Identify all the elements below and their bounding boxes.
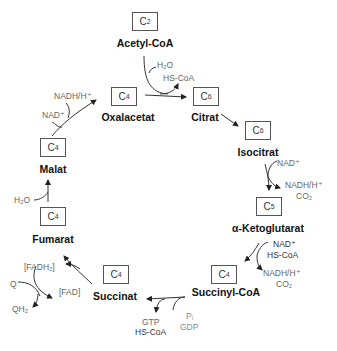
cofactor-co2-isocitrate: CO₂	[296, 191, 312, 201]
metabolite-alpha-ketoglutarat: α-Ketoglutarat	[232, 222, 304, 234]
carbon-count-box-succinat: C4	[103, 265, 129, 284]
carbon-label: C	[139, 16, 146, 27]
cofactor-fadh2: [FADH₂]	[24, 262, 55, 272]
cofactor-gtp: GTP	[142, 317, 159, 327]
cofactor-nadh-malate: NADH/H⁺	[54, 91, 92, 101]
carbon-count-box-fumarat: C4	[40, 207, 66, 226]
cofactor-hs-coa-succinyl: HS-CoA	[135, 327, 166, 337]
carbon-label: C	[110, 269, 117, 280]
metabolite-isocitrat: Isocitrat	[238, 146, 279, 158]
carbon-label: C	[47, 142, 54, 153]
cofactor-co2-akg: CO₂	[276, 279, 292, 289]
metabolite-malat: Malat	[40, 163, 67, 175]
cofactor-q: Q	[10, 279, 17, 289]
cofactor-hs-coa-akg: HS-CoA	[267, 250, 298, 260]
cofactor-qh2: QH₂	[12, 304, 28, 314]
carbon-label: C	[118, 91, 125, 102]
cofactor-fad: [FAD]	[59, 287, 80, 297]
carbon-subscript: 6	[208, 93, 212, 100]
carbon-label: C	[252, 125, 259, 136]
metabolite-fumarat: Fumarat	[32, 233, 73, 245]
cofactor-h2o-citrate: H₂O	[157, 60, 173, 70]
cofactor-pi: Pᵢ	[186, 311, 193, 321]
carbon-subscript: 4	[126, 93, 130, 100]
carbon-subscript: 4	[55, 144, 59, 151]
carbon-subscript: 6	[260, 127, 264, 134]
cofactor-h2o-fumarase: H₂O	[14, 195, 30, 205]
carbon-subscript: 2	[147, 18, 151, 25]
metabolite-acetyl-coa: Acetyl-CoA	[117, 37, 174, 49]
cofactor-nad-malate: NAD⁺	[42, 110, 65, 120]
cofactor-hs-coa-citrate: HS-CoA	[163, 73, 194, 83]
metabolite-succinyl-coa: Succinyl-CoA	[192, 286, 260, 298]
carbon-count-box-succinyl-coa: C4	[211, 265, 237, 284]
carbon-subscript: 4	[226, 271, 230, 278]
cofactor-nad-isocitrate: NAD⁺	[277, 158, 300, 168]
carbon-subscript: 4	[55, 213, 59, 220]
metabolite-succinat: Succinat	[93, 290, 137, 302]
carbon-label: C	[200, 91, 207, 102]
carbon-count-box-citrat: C6	[193, 87, 219, 106]
cofactor-nadh-akg: NADH/H⁺	[263, 268, 301, 278]
cofactor-nadh-isocitrate: NADH/H⁺	[285, 180, 323, 190]
carbon-count-box-alpha-ketoglutarat: C5	[256, 197, 282, 216]
reaction-arrows	[0, 0, 337, 351]
carbon-label: C	[263, 201, 270, 212]
carbon-count-box-isocitrat: C6	[245, 121, 271, 140]
citric-acid-cycle-diagram: C2 Acetyl-CoA C4 Oxalacetat C6 Citrat C6…	[0, 0, 337, 351]
carbon-label: C	[218, 269, 225, 280]
metabolite-citrat: Citrat	[191, 111, 218, 123]
metabolite-oxalacetat: Oxalacetat	[101, 111, 154, 123]
cofactor-gdp: GDP	[180, 322, 198, 332]
cofactor-nad-akg: NAD⁺	[273, 239, 296, 249]
carbon-count-box-oxalacetat: C4	[111, 87, 137, 106]
carbon-count-box-acetyl-coa: C2	[132, 12, 158, 31]
carbon-subscript: 4	[118, 271, 122, 278]
carbon-subscript: 5	[271, 203, 275, 210]
carbon-count-box-malat: C4	[40, 138, 66, 157]
carbon-label: C	[47, 211, 54, 222]
